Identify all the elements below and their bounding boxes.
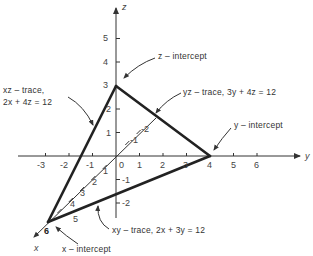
z-axis xyxy=(116,8,120,218)
y-intercept-arrow xyxy=(214,128,231,150)
z-intercept-label: z – intercept xyxy=(158,51,207,61)
y-tick-neg1: -1 xyxy=(86,160,94,170)
y-tick-4: 4 xyxy=(207,160,212,170)
y-tick-3: 3 xyxy=(183,160,188,170)
z-tick-1: 1 xyxy=(106,128,111,138)
z-tick-5: 5 xyxy=(103,33,108,43)
x-tick-4: 4 xyxy=(70,199,75,209)
z-tick-4: 4 xyxy=(103,57,108,67)
x-tick-6: 6 xyxy=(44,226,49,236)
xy-trace-label: xy – trace, 2x + 3y = 12 xyxy=(112,225,205,235)
xz-trace-label-line1: xz – trace, xyxy=(3,85,44,95)
y-axis xyxy=(18,153,300,156)
plane-traces-diagram: z y x 5 4 3 2 1 -1 -2 -3 -2 -1 0 1 2 3 4… xyxy=(0,0,313,256)
origin-label: 0 xyxy=(119,160,124,170)
x-intercept-label: x – intercept xyxy=(62,244,111,254)
y-tick-1: 1 xyxy=(137,160,142,170)
z-intercept-arrow xyxy=(124,58,155,78)
z-axis-name: z xyxy=(122,2,127,12)
x-tick-neg2: -2 xyxy=(141,124,149,134)
x-tick-neg1: -1 xyxy=(130,135,138,145)
x-tick-1: 1 xyxy=(103,166,108,176)
y-intercept-label: y – intercept xyxy=(234,120,283,130)
y-tick-neg3: -3 xyxy=(37,160,45,170)
z-tick-neg2: -2 xyxy=(122,198,130,208)
x-axis-name: x xyxy=(34,243,39,253)
xz-trace-arrow xyxy=(68,97,93,125)
z-tick-neg1: -1 xyxy=(122,175,130,185)
x-tick-5: 5 xyxy=(73,214,78,224)
z-tick-2: 2 xyxy=(106,104,111,114)
x-tick-2: 2 xyxy=(92,177,97,187)
y-tick-5: 5 xyxy=(231,160,236,170)
x-intercept-arrow xyxy=(56,227,78,244)
xy-trace-arrow xyxy=(98,206,109,229)
z-tick-3: 3 xyxy=(103,80,108,90)
yz-trace-arrow xyxy=(156,93,181,113)
x-tick-3: 3 xyxy=(80,188,85,198)
y-tick-neg2: -2 xyxy=(60,160,68,170)
y-tick-6: 6 xyxy=(254,160,259,170)
xz-trace-label-line2: 2x + 4z = 12 xyxy=(3,97,52,107)
y-tick-2: 2 xyxy=(160,160,165,170)
y-axis-name: y xyxy=(305,151,310,161)
yz-trace-label: yz – trace, 3y + 4z = 12 xyxy=(183,87,276,97)
